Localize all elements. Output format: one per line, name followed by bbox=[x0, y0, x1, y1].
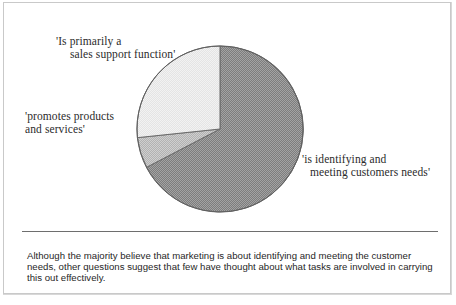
pie-label-promotes-line2: and services' bbox=[25, 123, 85, 135]
pie-label-promotes-products-services: 'promotes products and services' bbox=[25, 96, 155, 137]
pie-label-identifying-line2: meeting customers needs' bbox=[302, 166, 452, 180]
pie-label-sales-support-function: 'Is primarily a sales support function' bbox=[56, 21, 216, 75]
pie-label-promotes-line1: 'promotes products bbox=[25, 110, 114, 122]
pie-label-identifying-meeting-needs: 'is identifying and meeting customers ne… bbox=[302, 139, 452, 193]
pie-label-sales-support-line1: 'Is primarily a bbox=[56, 35, 122, 47]
pie-label-sales-support-line2: sales support function' bbox=[56, 48, 216, 62]
figure-frame-bottom-edge bbox=[3, 294, 452, 295]
pie-chart-figure: 'Is primarily a sales support function' … bbox=[0, 0, 456, 305]
figure-caption: Although the majority believe that marke… bbox=[27, 250, 433, 284]
pie-label-identifying-line1: 'is identifying and bbox=[302, 153, 386, 165]
caption-divider bbox=[22, 231, 438, 232]
